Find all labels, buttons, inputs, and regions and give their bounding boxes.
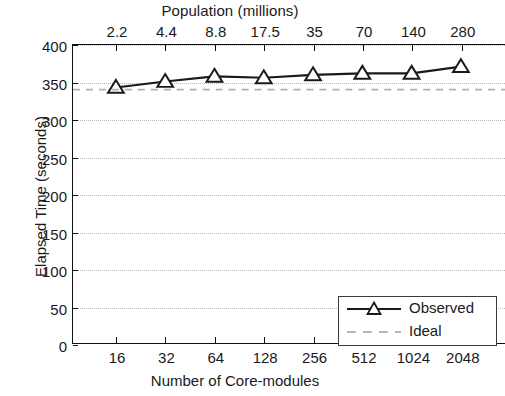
legend-item-observed: Observed xyxy=(339,298,496,320)
chart-legend: Observed Ideal xyxy=(338,296,497,346)
x-tick-label-bottom: 2048 xyxy=(446,349,479,366)
legend-swatch-ideal xyxy=(345,321,403,343)
x-tick-label-top: 35 xyxy=(306,23,323,40)
series-observed xyxy=(108,59,469,93)
data-point-marker xyxy=(453,59,469,72)
legend-swatch-observed xyxy=(345,298,403,320)
legend-label-ideal: Ideal xyxy=(409,322,442,339)
x-tick-label-bottom: 1024 xyxy=(397,349,430,366)
x-tick-label-top: 140 xyxy=(401,23,426,40)
legend-item-ideal: Ideal xyxy=(339,321,496,343)
x-tick-label-bottom: 256 xyxy=(302,349,327,366)
y-tick: 0 xyxy=(73,345,78,346)
data-point-marker xyxy=(207,69,223,82)
y-tick-label: 100 xyxy=(42,263,67,280)
x-tick-label-top: 280 xyxy=(450,23,475,40)
x-axis-title: Number of Core-modules xyxy=(0,372,470,389)
y-tick-label: 50 xyxy=(50,300,67,317)
y-tick-label: 250 xyxy=(42,150,67,167)
y-tick-label: 0 xyxy=(59,338,67,355)
x-tick-label-bottom: 64 xyxy=(207,349,224,366)
x-tick-label-top: 8.8 xyxy=(205,23,226,40)
y-tick-label: 200 xyxy=(42,188,67,205)
y-tick-label: 300 xyxy=(42,113,67,130)
legend-label-observed: Observed xyxy=(409,299,474,316)
x-tick-label-top: 17.5 xyxy=(251,23,280,40)
y-tick-label: 150 xyxy=(42,225,67,242)
y-tick-label: 400 xyxy=(42,38,67,55)
chart-figure: Population (millions) Elapsed Time (seco… xyxy=(0,0,505,396)
y-tick-label: 350 xyxy=(42,75,67,92)
x-tick-label-top: 2.2 xyxy=(107,23,128,40)
x-tick-label-top: 4.4 xyxy=(156,23,177,40)
x-tick-label-bottom: 32 xyxy=(158,349,175,366)
x-tick-label-bottom: 128 xyxy=(253,349,278,366)
x-tick-label-bottom: 16 xyxy=(109,349,126,366)
x-tick-label-top: 70 xyxy=(356,23,373,40)
x-tick-label-bottom: 512 xyxy=(351,349,376,366)
top-axis-title: Population (millions) xyxy=(0,2,460,19)
